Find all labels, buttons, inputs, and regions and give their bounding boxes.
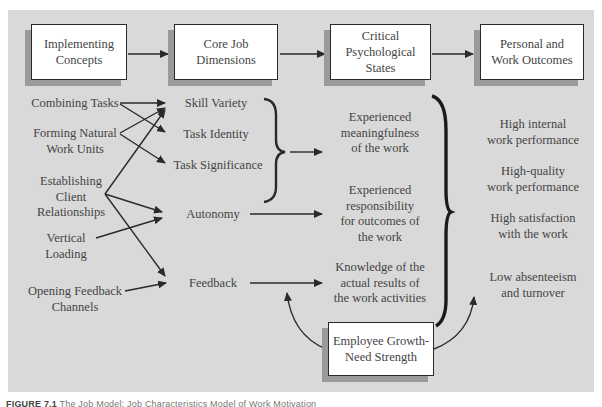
dimension-feedback: Feedback (180, 276, 246, 292)
label-line: meaningfulness (330, 126, 430, 142)
header-label: Psychological (345, 44, 415, 60)
label-line: Channels (26, 300, 124, 316)
label-line: Autonomy (180, 207, 246, 223)
state-knowledge-of-results: Knowledge of theactual results ofthe wor… (322, 260, 438, 307)
label-line: Loading (40, 247, 92, 263)
dimension-task-identity: Task Identity (174, 127, 258, 143)
label-line: Task Significance (170, 158, 266, 174)
header-label: Core Job (196, 36, 256, 52)
concept-forming-natural-work-units: Forming NaturalWork Units (30, 126, 120, 157)
header-label: States (345, 60, 415, 76)
label-line: High satisfaction (478, 211, 588, 227)
label-line: work performance (478, 133, 588, 149)
label-line: Feedback (180, 276, 246, 292)
dimension-skill-variety: Skill Variety (174, 96, 258, 112)
moderator-box-growth-need-strength: Employee Growth-Need Strength (328, 322, 434, 376)
header-label: Concepts (44, 52, 114, 68)
label-line: Relationships (36, 205, 106, 221)
label-line: Skill Variety (174, 96, 258, 112)
label-line: actual results of (322, 276, 438, 292)
label-line: with the work (478, 227, 588, 243)
concept-vertical-loading: VerticalLoading (40, 231, 92, 262)
header-label: Work Outcomes (491, 52, 572, 68)
label-line: responsibility (330, 199, 430, 215)
label-line: Task Identity (174, 127, 258, 143)
label-line: High internal (478, 117, 588, 133)
label-line: High-quality (478, 164, 588, 180)
label-line: Knowledge of the (322, 260, 438, 276)
label-line: Opening Feedback (26, 284, 124, 300)
label-line: the work (330, 230, 430, 246)
label-line: Experienced (330, 183, 430, 199)
label-line: work performance (478, 180, 588, 196)
label-line: and turnover (478, 286, 588, 302)
header-label: Personal and (491, 36, 572, 52)
caption-text: The Job Model: Job Characteristics Model… (60, 399, 317, 407)
header-box-core-job-dimensions: Core JobDimensions (174, 24, 278, 80)
concept-combining-tasks: Combining Tasks (30, 96, 120, 112)
label-line: of the work (330, 141, 430, 157)
header-box-personal-work-outcomes: Personal andWork Outcomes (480, 24, 584, 80)
header-label: Dimensions (196, 52, 256, 68)
outcome-high-internal-work-performance: High internalwork performance (478, 117, 588, 148)
label-line: Vertical (40, 231, 92, 247)
label-line: Combining Tasks (30, 96, 120, 112)
dimension-task-significance: Task Significance (170, 158, 266, 174)
outcome-high-satisfaction: High satisfactionwith the work (478, 211, 588, 242)
header-label: Critical (345, 28, 415, 44)
concept-opening-feedback-channels: Opening FeedbackChannels (26, 284, 124, 315)
header-box-critical-psychological-states: CriticalPsychologicalStates (330, 24, 431, 80)
figure-caption: FIGURE 7.1 The Job Model: Job Characteri… (6, 399, 316, 407)
label-line: for outcomes of (330, 214, 430, 230)
label-line: Client (36, 190, 106, 206)
dimension-autonomy: Autonomy (180, 207, 246, 223)
brace-core-dimensions (264, 99, 285, 202)
outcome-low-absenteeism: Low absenteeismand turnover (478, 270, 588, 301)
state-experienced-meaningfulness: Experiencedmeaningfulnessof the work (330, 110, 430, 157)
label-line: Employee Growth- (333, 333, 429, 349)
label-line: the work activities (322, 291, 438, 307)
moderator-arrow-left (287, 293, 326, 349)
caption-label: FIGURE 7.1 (6, 399, 57, 407)
label-line: Low absenteeism (478, 270, 588, 286)
label-line: Forming Natural (30, 126, 120, 142)
header-box-implementing-concepts: ImplementingConcepts (31, 24, 127, 80)
label-line: Establishing (36, 174, 106, 190)
label-line: Work Units (30, 142, 120, 158)
outcome-high-quality-work-performance: High-qualitywork performance (478, 164, 588, 195)
label-line: Need Strength (333, 349, 429, 365)
concept-establishing-client-relationships: EstablishingClientRelationships (36, 174, 106, 221)
label-line: Experienced (330, 110, 430, 126)
header-label: Implementing (44, 36, 114, 52)
state-experienced-responsibility: Experiencedresponsibilityfor outcomes of… (330, 183, 430, 245)
